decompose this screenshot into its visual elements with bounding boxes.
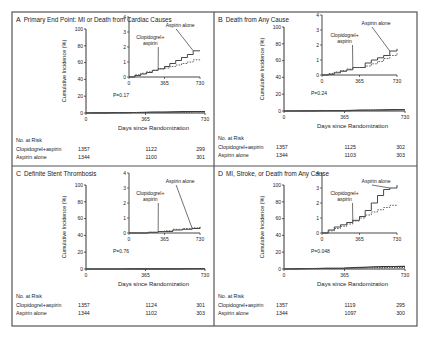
inset-y-tick-label: 2 — [316, 42, 319, 48]
risk-count: 1122 — [146, 146, 157, 152]
annotation-clopidogrel-line2: aspirin — [337, 38, 352, 44]
risk-count: 303 — [396, 152, 405, 158]
inset-x-tick-label: 0 — [128, 80, 131, 86]
y-tick-label: 0 — [80, 110, 83, 116]
risk-count: 1344 — [78, 310, 90, 316]
annotation-clopidogrel-line2: aspirin — [143, 40, 158, 46]
panel-title-text: MI, Stroke, or Death from Any Cause — [226, 170, 329, 178]
risk-count: 295 — [396, 302, 405, 308]
annotation-clopidogrel-line2: aspirin — [337, 196, 352, 202]
y-tick-label: 100 — [75, 26, 84, 32]
y-tick-label: 60 — [275, 57, 281, 63]
risk-group-label: Clopidogrel+aspirin — [16, 146, 62, 152]
inset-y-tick-label: 3 — [316, 27, 319, 33]
inset-x-tick-label: 0 — [321, 78, 324, 84]
y-axis-label: Cumulative Incidence (%) — [61, 196, 67, 259]
inset-y-tick-label: 0 — [123, 230, 126, 236]
inset-y-tick-label: 4 — [123, 14, 126, 20]
x-axis-label: Days since Randomization — [317, 123, 388, 129]
inset-curve-aspirin — [129, 227, 200, 233]
panel-d: DMI, Stroke, or Death from Any Cause0204… — [218, 170, 409, 316]
risk-count: 1125 — [345, 144, 356, 150]
inset-y-tick-label: 4 — [123, 170, 126, 176]
inset-x-tick-label: 365 — [355, 236, 364, 242]
annotation-pointer-aspirin — [372, 27, 390, 51]
y-tick-label: 60 — [275, 215, 281, 221]
risk-group-label: Aspirin alone — [218, 152, 249, 158]
x-tick-label: 730 — [401, 114, 410, 120]
inset-curve-aspirin — [129, 51, 200, 77]
p-value: P=0.048 — [311, 248, 330, 254]
risk-count: 301 — [196, 302, 205, 308]
x-tick-label: 730 — [401, 272, 410, 278]
risk-group-label: Aspirin alone — [218, 310, 249, 316]
annotation-pointer-aspirin — [176, 29, 193, 51]
y-tick-label: 60 — [77, 59, 83, 65]
inset-y-tick-label: 0 — [316, 230, 319, 236]
risk-count: 1357 — [276, 302, 288, 308]
x-tick-label: 365 — [141, 272, 150, 278]
y-tick-label: 20 — [275, 249, 281, 255]
inset-y-tick-label: 1 — [123, 59, 126, 65]
panel-letter: D — [218, 170, 223, 177]
inset-x-tick-label: 730 — [393, 236, 402, 242]
x-tick-label: 365 — [141, 116, 150, 122]
x-tick-label: 0 — [283, 272, 286, 278]
x-tick-label: 730 — [201, 116, 210, 122]
y-tick-label: 20 — [77, 93, 83, 99]
inset-y-tick-label: 3 — [316, 185, 319, 191]
inset-x-tick-label: 730 — [196, 80, 205, 86]
y-axis-label: Cumulative Incidence (%) — [61, 40, 67, 103]
risk-group-label: Clopidogrel+aspirin — [218, 144, 264, 150]
x-axis-label: Days since Randomization — [118, 281, 189, 287]
risk-count: 303 — [196, 310, 205, 316]
panel-title: APrimary End Point: MI or Death from Car… — [16, 16, 172, 24]
y-tick-label: 60 — [77, 215, 83, 221]
risk-count: 1344 — [78, 154, 90, 160]
inset-y-tick-label: 1 — [123, 215, 126, 221]
risk-count: 1344 — [276, 152, 288, 158]
risk-header: No. at Risk — [218, 293, 244, 299]
annotation-clopidogrel: Clopidogrel+aspirin — [330, 190, 358, 202]
inset-y-tick-label: 0 — [123, 74, 126, 80]
panel-title: DMI, Stroke, or Death from Any Cause — [218, 170, 329, 178]
risk-count: 1357 — [78, 146, 90, 152]
risk-group-label: Clopidogrel+aspirin — [218, 302, 264, 308]
inset-curve-aspirin — [322, 49, 397, 75]
inset-y-tick-label: 4 — [316, 12, 319, 18]
risk-count: 1100 — [146, 154, 157, 160]
inset-y-tick-label: 2 — [123, 200, 126, 206]
y-tick-label: 40 — [275, 232, 281, 238]
annotation-clopidogrel-line2: aspirin — [143, 196, 158, 202]
inset-x-tick-label: 0 — [321, 236, 324, 242]
panel-b: BDeath from Any Cause0204060801000365730… — [218, 12, 409, 158]
annotation-pointer-aspirin — [372, 185, 390, 188]
inset-x-tick-label: 730 — [196, 236, 205, 242]
panel-c: CDefinite Stent Thrombosis02040608010003… — [16, 170, 209, 316]
risk-count: 1097 — [345, 310, 357, 316]
x-tick-label: 0 — [85, 272, 88, 278]
risk-group-label: Aspirin alone — [16, 310, 47, 316]
y-tick-label: 80 — [77, 199, 83, 205]
x-axis-label: Days since Randomization — [317, 281, 388, 287]
y-axis-label: Cumulative Incidence (%) — [259, 38, 265, 101]
risk-count: 1357 — [78, 302, 90, 308]
inset-curve-clopidogrel — [322, 205, 397, 233]
annotation-clopidogrel: Clopidogrel+aspirin — [136, 34, 164, 46]
inset-y-tick-label: 1 — [316, 57, 319, 63]
y-tick-label: 40 — [77, 232, 83, 238]
figure-canvas: APrimary End Point: MI or Death from Car… — [0, 0, 427, 339]
annotation-clopidogrel: Clopidogrel+aspirin — [330, 32, 358, 44]
x-axis-label: Days since Randomization — [118, 125, 189, 131]
panel-title-text: Definite Stent Thrombosis — [24, 170, 96, 177]
inset-y-tick-label: 2 — [123, 44, 126, 50]
inset-x-tick-label: 0 — [128, 236, 131, 242]
risk-header: No. at Risk — [16, 137, 42, 143]
inset-y-tick-label: 3 — [123, 185, 126, 191]
y-tick-label: 0 — [278, 108, 281, 114]
panel-title-text: Primary End Point: MI or Death from Card… — [24, 16, 172, 24]
panel-letter: C — [16, 170, 21, 177]
risk-count: 1344 — [276, 310, 288, 316]
annotation-aspirin: Aspirin alone — [362, 20, 391, 26]
x-tick-label: 365 — [340, 272, 349, 278]
